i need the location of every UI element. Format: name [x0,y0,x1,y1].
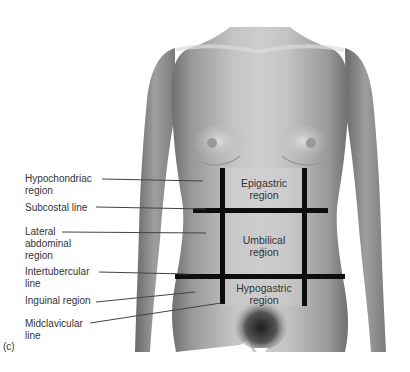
label-lateral-abdominal-region: Lateral abdominal region [25,226,71,262]
label-hypochondriac-region: Hypochondriac region [25,173,92,197]
label-midclavicular-line: Midclavicular line [25,318,83,342]
region-label-hypogastric: Hypogastric region [225,282,303,306]
left-arm [135,48,175,352]
intertubercular-line [175,274,345,279]
region-label-umbilical: Umbilical region [228,234,300,258]
region-label-epigastric: Epigastric region [228,177,300,201]
subcostal-line [193,208,328,213]
label-intertubercular-line: Intertubercular line [25,266,89,290]
label-inguinal-region: Inguinal region [25,295,91,307]
right-arm [345,48,386,352]
panel-label: (c) [3,341,15,352]
label-subcostal-line: Subcostal line [25,202,87,214]
abdominal-regions-figure: Hypochondriac region Subcostal line Late… [0,0,410,372]
